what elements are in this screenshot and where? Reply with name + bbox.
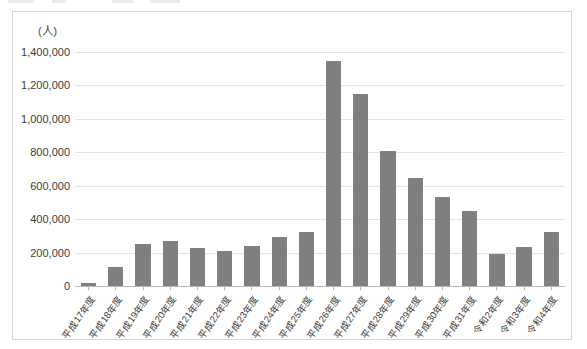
bar-chart: (人) 0200,000400,000600,000800,0001,000,0… <box>0 0 587 349</box>
bar-slot <box>538 52 565 286</box>
y-axis-tick-label: 200,000 <box>8 247 70 259</box>
y-axis-tick-labels: 0200,000400,000600,000800,0001,000,0001,… <box>5 52 70 286</box>
x-axis-category-labels: 平成17年度平成18年度平成19年度平成20年度平成21年度平成22年度平成23… <box>75 290 565 348</box>
bar-slot <box>75 52 102 286</box>
bar-slot <box>511 52 538 286</box>
x-label-slot: 令和4年度 <box>538 290 565 348</box>
bar-series <box>75 52 565 286</box>
y-axis-tick-label: 400,000 <box>8 213 70 225</box>
y-axis-tick-label: 1,200,000 <box>8 79 70 91</box>
cropped-header-artifact <box>0 0 587 9</box>
y-axis-tick-label: 1,400,000 <box>8 46 70 58</box>
y-axis-unit-label: (人) <box>38 22 57 38</box>
plot-area <box>75 52 565 286</box>
y-axis-tick-label: 0 <box>8 280 70 292</box>
y-axis-tick-label: 800,000 <box>8 146 70 158</box>
y-axis-tick-label: 1,000,000 <box>8 113 70 125</box>
y-axis-tick-label: 600,000 <box>8 180 70 192</box>
